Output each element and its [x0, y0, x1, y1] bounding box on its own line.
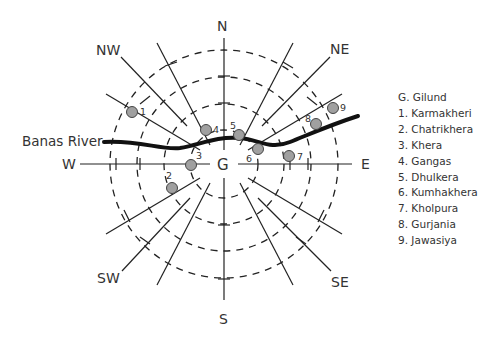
- site-marker-8: [311, 119, 322, 130]
- legend-item-1: 1. Karmakheri: [398, 106, 478, 122]
- label-s: S: [219, 311, 228, 327]
- legend-item-7: 7. Kholpura: [398, 201, 478, 217]
- site-marker-1: [127, 107, 138, 118]
- site-marker-7: [284, 151, 295, 162]
- site-label-9: 9: [340, 102, 346, 113]
- site-marker-3: [186, 160, 197, 171]
- legend-item-gilund: G. Gilund: [398, 90, 478, 106]
- label-se: SE: [331, 274, 349, 290]
- label-sw: SW: [97, 270, 120, 286]
- legend-item-4: 4. Gangas: [398, 154, 478, 170]
- site-marker-5: [234, 130, 245, 141]
- label-nw: NW: [96, 42, 120, 58]
- site-label-1: 1: [140, 106, 146, 117]
- center-label-gilund: G: [217, 156, 229, 174]
- river-label: Banas River: [22, 133, 103, 149]
- site-marker-2: [167, 183, 178, 194]
- legend-item-2: 2. Chatrikhera: [398, 122, 478, 138]
- label-n: N: [217, 18, 227, 34]
- site-marker-9: [328, 103, 339, 114]
- legend-item-8: 8. Gurjania: [398, 217, 478, 233]
- site-marker-4: [201, 125, 212, 136]
- site-marker-6: [253, 144, 264, 155]
- legend-item-9: 9. Jawasiya: [398, 233, 478, 249]
- direction-labels: N NE E SE S SW W NW: [62, 18, 370, 327]
- legend-item-5: 5. Dhulkera: [398, 170, 478, 186]
- label-w: W: [62, 156, 76, 172]
- site-legend: G. Gilund 1. Karmakheri 2. Chatrikhera 3…: [398, 90, 478, 249]
- site-label-7: 7: [297, 151, 303, 162]
- site-label-6: 6: [246, 153, 252, 164]
- label-ne: NE: [330, 41, 349, 57]
- site-label-4: 4: [213, 124, 219, 135]
- site-label-2: 2: [166, 170, 172, 181]
- site-label-3: 3: [196, 150, 202, 161]
- site-label-8: 8: [305, 113, 311, 124]
- legend-item-3: 3. Khera: [398, 138, 478, 154]
- legend-item-6: 6. Kumhakhera: [398, 185, 478, 201]
- site-label-5: 5: [230, 120, 236, 131]
- label-e: E: [361, 156, 370, 172]
- site-marker-labels: 1 2 3 4 5 6 7 8 9: [140, 102, 346, 181]
